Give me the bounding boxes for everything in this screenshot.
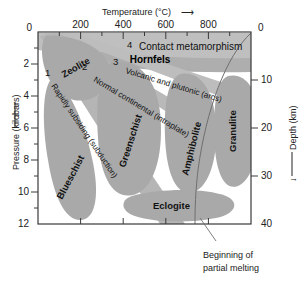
right-tick-label-10: 10 (261, 74, 273, 85)
left-tick-label-6: 6 (23, 122, 29, 133)
right-axis-arrow: ↓ (288, 178, 298, 183)
geotherm-number-3: 3 (113, 56, 118, 67)
melting-caption-line1: Beginning of (203, 250, 254, 260)
left-tick-label-10: 10 (18, 186, 30, 197)
top-axis-title: Temperature (°C) (102, 7, 171, 17)
right-tick-label-30: 30 (261, 170, 273, 181)
corner-label-top-right: 0 (258, 22, 264, 33)
left-tick-label-2: 2 (23, 58, 29, 69)
facies-label-hornfels: Hornfels (130, 54, 171, 65)
left-tick-label-8: 8 (23, 154, 29, 165)
left-tick-label-12: 12 (18, 218, 30, 229)
left-axis-title: Pressure (kilobars) (11, 94, 21, 170)
facies-label-eclogite: Eclogite (153, 200, 190, 211)
melting-caption-line2: partial melting (203, 263, 259, 273)
corner-label-top-left: 0 (26, 22, 32, 33)
left-axis-ticks (31, 48, 38, 208)
right-axis-title: Depth (km) (288, 105, 298, 150)
geotherm-number-4: 4 (127, 39, 132, 50)
top-tick-label-400: 400 (115, 19, 132, 30)
left-axis-arrow: ↓ (11, 114, 21, 119)
left-tick-label-4: 4 (23, 90, 29, 101)
top-axis-arrow: ⟶ (181, 7, 194, 17)
top-tick-label-800: 800 (200, 19, 217, 30)
facies-diagram-figure: Temperature (°C) ⟶ 200 400 600 800 0 0 P… (0, 0, 303, 286)
top-tick-label-600: 600 (157, 19, 174, 30)
right-tick-label-20: 20 (261, 122, 273, 133)
geotherm-number-1: 1 (45, 67, 50, 78)
diagram-canvas: Temperature (°C) ⟶ 200 400 600 800 0 0 P… (0, 0, 303, 286)
right-tick-label-40: 40 (261, 218, 273, 229)
geotherm-label-4: Contact metamorphism (139, 41, 242, 52)
top-tick-label-200: 200 (72, 19, 89, 30)
right-axis-ticks (251, 80, 258, 176)
facies-label-granulite: Granulite (227, 110, 238, 152)
